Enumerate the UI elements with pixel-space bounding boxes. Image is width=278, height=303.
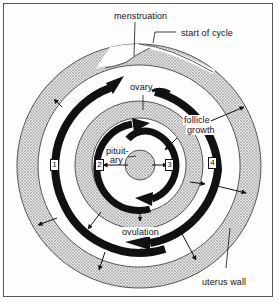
label-growth: growth — [186, 125, 216, 135]
label-ovulation: ovulation — [121, 227, 160, 237]
stage-3-badge: 3 — [165, 159, 174, 171]
stage-2-badge: 2 — [95, 159, 104, 171]
label-start-of-cycle: start of cycle — [181, 28, 233, 38]
label-follicle: follicle — [183, 115, 211, 125]
label-ovary: ovary — [130, 82, 153, 92]
label-menstruation: menstruation — [114, 11, 167, 21]
stage-4-badge: 4 — [208, 157, 217, 169]
pituitary-circle — [125, 150, 155, 180]
label-uterus-wall: uterus wall — [202, 277, 246, 287]
label-pituitary-line2: ary — [110, 155, 123, 165]
stage-1-badge: 1 — [50, 159, 59, 171]
cycle-diagram — [0, 0, 278, 303]
